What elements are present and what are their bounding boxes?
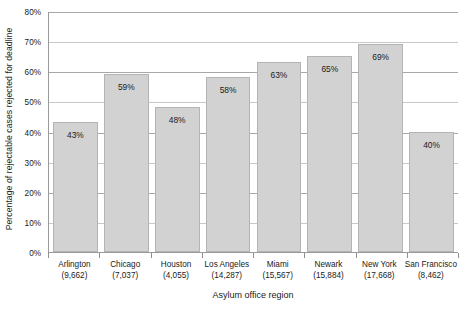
x-tick-label-count: (8,462) <box>405 270 457 281</box>
bar-slot: 40% <box>406 12 457 252</box>
y-tick-label: 70% <box>25 38 41 47</box>
y-axis-title-text: Percentage of rejectable cases rejected … <box>4 28 14 231</box>
x-tick-label-name: Houston <box>151 259 202 270</box>
bar[interactable]: 43% <box>53 122 98 252</box>
y-tick-label: 20% <box>25 188 41 197</box>
x-tick-mark <box>253 253 254 258</box>
y-tick-label: 0% <box>29 249 41 258</box>
x-tick-label-count: (15,884) <box>303 270 354 281</box>
x-tick-mark <box>48 253 49 258</box>
y-tick-label: 40% <box>25 128 41 137</box>
bar-chart-figure: Percentage of rejectable cases rejected … <box>0 0 469 314</box>
x-tick-label-count: (17,668) <box>354 270 405 281</box>
x-tick-mark <box>458 253 459 258</box>
x-tick-label-count: (7,037) <box>100 270 151 281</box>
bar-value-label: 69% <box>372 52 389 62</box>
bar-value-label: 43% <box>67 130 84 140</box>
bar-slot: 43% <box>50 12 101 252</box>
bar-value-label: 59% <box>118 82 135 92</box>
plot-area: 43%59%48%58%63%65%69%40% <box>48 12 458 253</box>
x-tick-mark <box>407 253 408 258</box>
bar[interactable]: 65% <box>307 56 352 252</box>
bar-slot: 65% <box>304 12 355 252</box>
x-tick-mark <box>304 253 305 258</box>
x-tick-label: Miami(15,567) <box>252 259 303 281</box>
bar-value-label: 58% <box>220 85 237 95</box>
x-tick-label: Chicago(7,037) <box>100 259 151 281</box>
x-tick-label-count: (15,567) <box>252 270 303 281</box>
bar-value-label: 40% <box>423 140 440 150</box>
x-tick-label-name: New York <box>354 259 405 270</box>
x-tick-label: New York(17,668) <box>354 259 405 281</box>
y-tick-label: 30% <box>25 158 41 167</box>
y-tick-label: 80% <box>25 8 41 17</box>
x-axis-ticks <box>48 253 458 258</box>
x-tick-label: Houston(4,055) <box>151 259 202 281</box>
x-tick-label-name: Chicago <box>100 259 151 270</box>
bar-value-label: 48% <box>169 115 186 125</box>
bar[interactable]: 40% <box>409 132 454 253</box>
x-tick-label-name: Newark <box>303 259 354 270</box>
bar-slot: 63% <box>254 12 305 252</box>
x-tick-label: Arlington(9,662) <box>49 259 100 281</box>
x-tick-label: Los Angeles(14,287) <box>201 259 252 281</box>
x-tick-mark <box>202 253 203 258</box>
x-tick-mark <box>151 253 152 258</box>
bar[interactable]: 59% <box>104 74 149 252</box>
y-axis-title: Percentage of rejectable cases rejected … <box>0 0 18 258</box>
x-tick-label-count: (9,662) <box>49 270 100 281</box>
bar[interactable]: 58% <box>206 77 251 252</box>
x-tick-label-count: (14,287) <box>201 270 252 281</box>
y-tick-label: 10% <box>25 218 41 227</box>
bar-value-label: 65% <box>321 64 338 74</box>
x-tick-mark <box>99 253 100 258</box>
x-tick-mark <box>356 253 357 258</box>
bar-slot: 59% <box>101 12 152 252</box>
bar[interactable]: 48% <box>155 107 200 252</box>
y-axis-tick-labels: 0%10%20%30%40%50%60%70%80% <box>18 12 44 253</box>
x-tick-label-name: Miami <box>252 259 303 270</box>
x-tick-label-count: (4,055) <box>151 270 202 281</box>
y-tick-label: 50% <box>25 98 41 107</box>
x-axis-title: Asylum office region <box>48 290 458 300</box>
bar[interactable]: 69% <box>358 44 403 252</box>
x-tick-label-name: Los Angeles <box>201 259 252 270</box>
bar-slot: 58% <box>203 12 254 252</box>
x-tick-label-name: Arlington <box>49 259 100 270</box>
bar-value-label: 63% <box>271 70 288 80</box>
x-tick-label-name: San Francisco <box>405 259 457 270</box>
x-tick-label: Newark(15,884) <box>303 259 354 281</box>
bars-container: 43%59%48%58%63%65%69%40% <box>49 12 458 252</box>
bar-slot: 69% <box>355 12 406 252</box>
x-axis-tick-labels: Arlington(9,662)Chicago(7,037)Houston(4,… <box>48 259 458 281</box>
bar[interactable]: 63% <box>257 62 302 252</box>
y-tick-label: 60% <box>25 68 41 77</box>
bar-slot: 48% <box>152 12 203 252</box>
x-tick-label: San Francisco(8,462) <box>405 259 457 281</box>
